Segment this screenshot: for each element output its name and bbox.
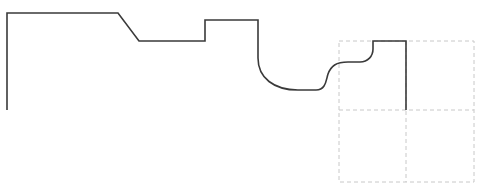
- profile-outline: [7, 13, 406, 110]
- diagram-canvas: [0, 0, 486, 186]
